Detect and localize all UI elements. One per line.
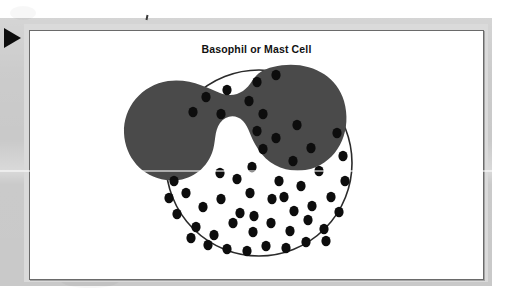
granule-icon xyxy=(321,236,330,246)
granule-icon xyxy=(222,244,231,254)
granule-icon xyxy=(198,202,207,212)
granule-icon xyxy=(245,188,254,198)
scanned-page: Basophil or Mast Cell xyxy=(0,0,511,296)
granule-icon xyxy=(248,227,257,237)
play-triangle-icon[interactable] xyxy=(4,28,21,48)
granule-icon xyxy=(188,107,197,117)
granule-icon xyxy=(289,206,298,216)
granule-icon xyxy=(288,156,297,166)
granule-icon xyxy=(326,192,335,202)
granule-icon xyxy=(258,144,267,154)
granule-icon xyxy=(201,92,210,102)
granule-icon xyxy=(267,194,276,204)
granule-icon xyxy=(222,85,231,95)
granule-icon xyxy=(252,126,261,136)
granule-icon xyxy=(203,240,212,250)
granule-icon xyxy=(281,243,290,253)
granule-icon xyxy=(215,168,224,178)
granule-icon xyxy=(332,128,341,138)
granule-icon xyxy=(252,77,261,87)
granule-icon xyxy=(258,109,267,119)
granule-icon xyxy=(181,188,190,198)
granule-icon xyxy=(303,215,312,225)
granule-icon xyxy=(319,224,328,234)
granule-icon xyxy=(296,181,305,191)
granule-icon xyxy=(279,192,288,202)
granule-icon xyxy=(306,143,315,153)
granule-icon xyxy=(169,176,178,186)
granule-icon xyxy=(216,109,225,119)
granule-icon xyxy=(164,193,173,203)
granule-icon xyxy=(307,201,316,211)
granule-icon xyxy=(301,237,310,247)
granule-icon xyxy=(244,96,253,106)
granule-icon xyxy=(228,218,237,228)
granule-icon xyxy=(266,218,275,228)
basophil-cell-illustration xyxy=(30,31,485,281)
granule-icon xyxy=(285,226,294,236)
granule-icon xyxy=(235,208,244,218)
figure-panel: Basophil or Mast Cell xyxy=(29,30,484,280)
granule-icon xyxy=(314,166,323,176)
granule-icon xyxy=(242,246,251,256)
granule-icon xyxy=(209,230,218,240)
granule-icon xyxy=(232,174,241,184)
granule-icon xyxy=(249,211,258,221)
granule-icon xyxy=(271,133,280,143)
granule-icon xyxy=(338,151,347,161)
granule-icon xyxy=(292,120,301,130)
granule-icon xyxy=(191,222,200,232)
granule-icon xyxy=(334,207,343,217)
granule-icon xyxy=(247,162,256,172)
granule-icon xyxy=(186,233,195,243)
granule-icon xyxy=(340,176,349,186)
granule-icon xyxy=(271,70,280,80)
granule-icon xyxy=(216,194,225,204)
granule-icon xyxy=(274,176,283,186)
granule-icon xyxy=(261,241,270,251)
granule-icon xyxy=(172,209,181,219)
